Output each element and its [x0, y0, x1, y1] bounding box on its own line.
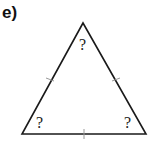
angle-label-top: ? — [79, 36, 86, 53]
angle-label-bottom-left: ? — [36, 114, 43, 131]
equilateral-triangle-diagram: ? ? ? — [0, 0, 152, 149]
angle-label-bottom-right: ? — [124, 114, 131, 131]
